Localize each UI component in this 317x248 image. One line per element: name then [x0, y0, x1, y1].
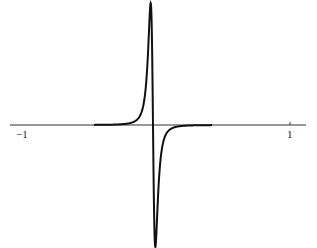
x-tick-label-min: −1 — [16, 129, 28, 140]
x-tick-label-max: 1 — [287, 129, 293, 140]
chart-canvas — [0, 0, 317, 248]
curve-line — [94, 3, 212, 247]
